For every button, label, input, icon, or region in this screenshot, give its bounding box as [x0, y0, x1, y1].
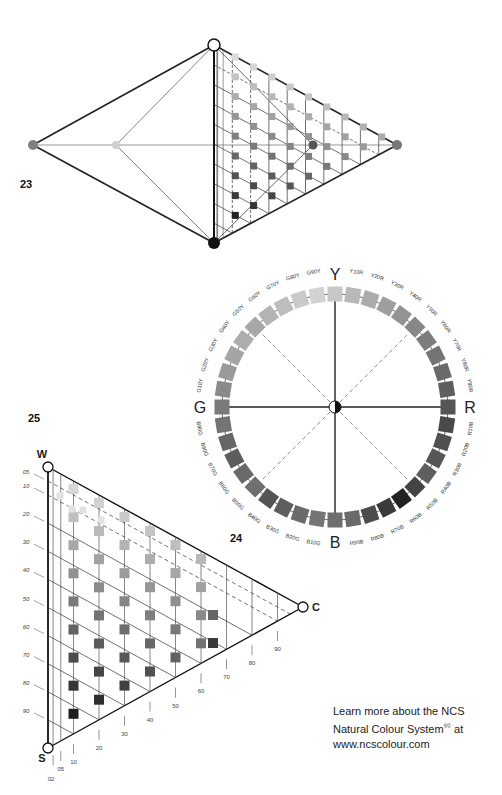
colour-sample — [208, 638, 218, 648]
blackness-tick — [34, 685, 44, 690]
colour-sample — [342, 133, 349, 140]
colour-sample-light — [80, 507, 87, 514]
hue-label: G10Y — [196, 378, 204, 393]
blackness-tick — [34, 713, 44, 718]
blackness-tick — [34, 488, 44, 493]
hue-label: Y10R — [349, 268, 364, 276]
ncs-diagrams-canvas: Y10RY20RY30RY40RY50RY60RY70RY80RY90RR10B… — [0, 0, 502, 795]
hue-sample-g20y — [218, 363, 237, 382]
hue-sample-y10r — [344, 287, 361, 304]
hue-label: G60Y — [247, 289, 262, 302]
footer-line-1: Learn more about the NCS — [333, 704, 502, 719]
corner-label-w: W — [37, 448, 48, 460]
colour-sample — [232, 54, 239, 61]
colour-sample — [305, 173, 312, 180]
chromaticness-tick-label: 30 — [121, 731, 128, 737]
colour-sample-light — [69, 506, 76, 513]
hue-label: R70B — [390, 523, 405, 535]
colour-sample — [250, 64, 257, 71]
registered-mark: ®© — [444, 723, 451, 729]
colour-sample — [287, 183, 294, 190]
blackness-tick — [34, 601, 44, 606]
hue-sample-g — [215, 400, 230, 415]
hue-label: R10B — [466, 421, 474, 436]
hue-label: B30G — [265, 523, 280, 535]
chromaticness-tick-label: 90 — [274, 646, 281, 652]
colour-sample — [171, 624, 181, 634]
colour-sample — [232, 133, 239, 140]
colour-sample — [268, 192, 275, 199]
hue-label: Y40R — [408, 290, 423, 303]
blackness-tick — [34, 544, 44, 549]
ncs-colour-solid-diagram — [28, 39, 402, 249]
colour-sample — [94, 498, 104, 508]
colour-sample — [171, 652, 181, 662]
colour-sample — [250, 123, 257, 130]
chromaticness-tick-label: 50 — [172, 703, 179, 709]
hue-sample-y70r — [426, 346, 446, 366]
hue-sample-b20g — [291, 505, 310, 524]
colour-sample — [69, 681, 79, 691]
colour-sample — [323, 143, 330, 150]
hue-label: G40Y — [218, 319, 231, 334]
hue-node-left — [28, 140, 38, 150]
chromaticness-tick-label: 70 — [223, 674, 230, 680]
hue-sample-r — [441, 400, 456, 415]
colour-sample — [120, 540, 130, 550]
ncs-colour-circle-diagram: Y10RY20RY30RY40RY50RY60RY70RY80RY90RR10B… — [194, 266, 476, 551]
colour-sample — [305, 113, 312, 120]
colour-sample — [342, 153, 349, 160]
constant-hue-line — [214, 45, 313, 145]
figure-number-23: 23 — [20, 178, 32, 190]
blackness-line — [48, 495, 278, 621]
colour-sample — [145, 638, 155, 648]
blackness-line — [48, 481, 290, 614]
hue-label: R80B — [370, 532, 385, 542]
hue-sample-y — [328, 287, 343, 302]
blackness-tick-label: 50 — [23, 596, 30, 602]
pole-label-g: G — [194, 399, 206, 416]
dashed-diagonal — [261, 407, 335, 481]
chroma-corner-node — [298, 602, 308, 612]
hue-label: G30Y — [207, 337, 219, 353]
cone-inner-edge — [116, 145, 214, 243]
pole-label-y: Y — [330, 266, 341, 283]
hue-label: B40G — [247, 511, 262, 524]
hue-sample-b30g — [274, 498, 294, 518]
colour-sample-light — [98, 517, 105, 524]
pole-label-b: B — [330, 534, 341, 551]
colour-sample — [250, 202, 257, 209]
colour-sample — [69, 653, 79, 663]
hue-label: G80Y — [285, 272, 301, 282]
hue-label: Y50R — [425, 303, 439, 317]
blackness-tick-label: 05 — [23, 469, 30, 475]
colour-sample — [196, 638, 206, 648]
footer-url-link[interactable]: www.ncscolour.com — [333, 737, 502, 752]
colour-sample — [360, 124, 367, 131]
blackness-tick-label: 40 — [23, 567, 30, 573]
hue-sample-y30r — [376, 296, 396, 316]
colour-sample — [232, 212, 239, 219]
colour-sample — [305, 153, 312, 160]
colour-sample — [94, 667, 104, 677]
blackness-tick — [34, 572, 44, 577]
corner-label-c: C — [312, 601, 320, 613]
figure-number-24: 24 — [230, 532, 242, 544]
colour-sample — [69, 484, 79, 494]
colour-sample — [268, 113, 275, 120]
colour-sample — [232, 172, 239, 179]
colour-sample — [120, 653, 130, 663]
colour-sample — [250, 182, 257, 189]
hue-label: G20Y — [200, 357, 210, 373]
colour-sample — [69, 512, 79, 522]
hue-label: R60B — [408, 511, 423, 524]
hue-label: B50G — [231, 497, 245, 511]
hue-sample-y20r — [360, 290, 379, 309]
hue-sample-y80r — [433, 363, 452, 382]
blackness-tick-label: 30 — [23, 539, 30, 545]
colour-sample — [268, 133, 275, 140]
colour-sample — [305, 94, 312, 101]
blackness-tick — [34, 516, 44, 521]
colour-sample — [250, 83, 257, 90]
colour-sample — [145, 554, 155, 564]
